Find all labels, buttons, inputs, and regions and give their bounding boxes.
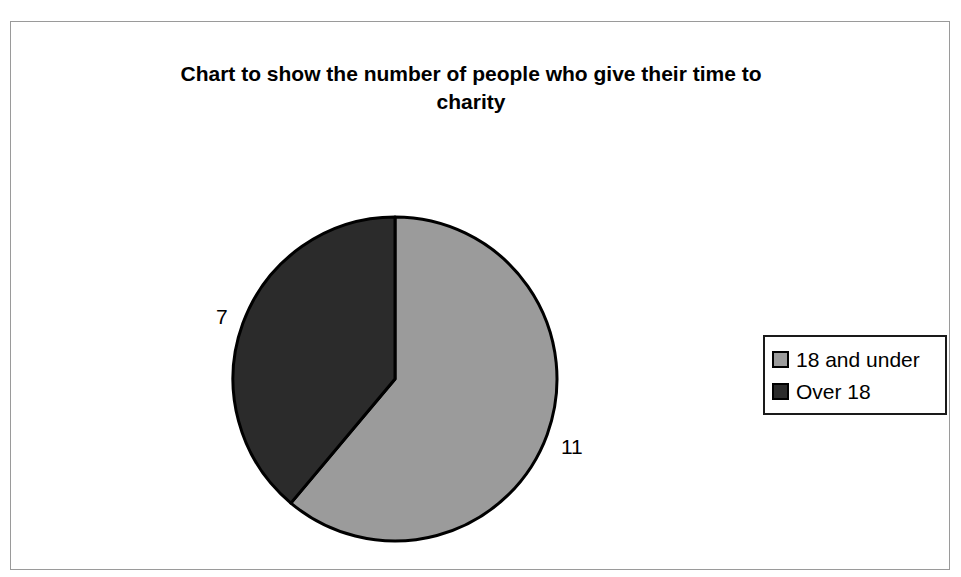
chart-title-line-2: charity bbox=[71, 88, 871, 116]
pie-chart-svg bbox=[233, 217, 557, 541]
chart-canvas: Chart to show the number of people who g… bbox=[0, 0, 961, 577]
chart-frame: Chart to show the number of people who g… bbox=[10, 21, 950, 570]
data-label-over-18: 7 bbox=[216, 306, 228, 327]
legend-swatch-icon-over-18 bbox=[772, 383, 789, 400]
legend-label-18-and-under: 18 and under bbox=[796, 349, 920, 370]
chart-title: Chart to show the number of people who g… bbox=[71, 60, 871, 116]
chart-title-line-1: Chart to show the number of people who g… bbox=[71, 60, 871, 88]
pie-plot-area bbox=[233, 217, 557, 541]
data-label-18-and-under: 11 bbox=[561, 436, 583, 457]
legend-item-over-18[interactable]: Over 18 bbox=[765, 375, 945, 407]
legend-item-18-and-under[interactable]: 18 and under bbox=[765, 343, 945, 375]
legend-label-over-18: Over 18 bbox=[796, 381, 871, 402]
legend-swatch-icon-18-and-under bbox=[772, 351, 789, 368]
chart-legend: 18 and under Over 18 bbox=[763, 335, 947, 415]
